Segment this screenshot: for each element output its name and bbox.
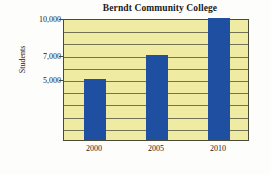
y-tick-label: 7,000 xyxy=(21,51,61,60)
x-tick-label-2005: 2005 xyxy=(131,144,181,153)
x-axis-tick-labels: 200020052010 xyxy=(63,144,249,158)
y-tick-label: 5,000 xyxy=(21,76,61,85)
bar-2005 xyxy=(146,55,168,140)
y-axis-tick-labels: 10,0007,0005,000 xyxy=(15,19,61,141)
y-tick-label: 10,000 xyxy=(21,15,61,24)
plot-area xyxy=(63,19,249,141)
bar-2010 xyxy=(208,18,230,140)
chart-title: Berndt Community College xyxy=(60,3,260,13)
bars-layer xyxy=(64,20,248,140)
x-tick-label-2000: 2000 xyxy=(69,144,119,153)
bar-chart-figure: Berndt Community College Students 10,000… xyxy=(0,0,271,175)
bar-2000 xyxy=(84,79,106,140)
x-tick-label-2010: 2010 xyxy=(193,144,243,153)
